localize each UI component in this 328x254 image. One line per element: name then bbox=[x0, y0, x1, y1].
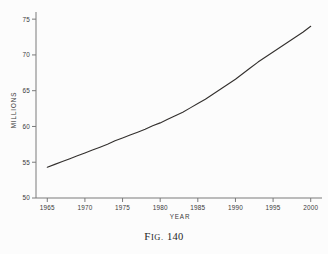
y-axis-tick-labels: 505560657075 bbox=[22, 16, 30, 202]
figure-caption: FIG. 140 bbox=[0, 230, 328, 242]
caption-smallcaps: IG. bbox=[151, 233, 164, 242]
y-tick-label: 50 bbox=[22, 194, 30, 201]
x-tick-label: 1975 bbox=[115, 204, 130, 211]
chart-canvas: 505560657075 196519701975198019851990199… bbox=[0, 0, 328, 254]
y-tick-label: 65 bbox=[22, 87, 30, 94]
y-tick-label: 75 bbox=[22, 16, 30, 23]
x-tick-label: 1990 bbox=[228, 204, 243, 211]
y-axis-title: MILLIONS bbox=[10, 92, 17, 129]
y-tick-label: 60 bbox=[22, 123, 30, 130]
population-line-series bbox=[47, 26, 310, 167]
x-tick-label: 1965 bbox=[40, 204, 55, 211]
x-tick-label: 1985 bbox=[190, 204, 205, 211]
figure-page: 505560657075 196519701975198019851990199… bbox=[0, 0, 328, 254]
x-tick-label: 1980 bbox=[153, 204, 168, 211]
x-axis-tick-labels: 19651970197519801985199019952000 bbox=[40, 204, 319, 211]
y-tick-label: 55 bbox=[22, 159, 30, 166]
x-tick-label: 1995 bbox=[266, 204, 281, 211]
x-tick-label: 1970 bbox=[77, 204, 92, 211]
caption-number: 140 bbox=[167, 231, 184, 242]
y-axis-ticks bbox=[32, 19, 36, 198]
x-axis-title: YEAR bbox=[170, 213, 191, 220]
y-tick-label: 70 bbox=[22, 51, 30, 58]
x-tick-label: 2000 bbox=[303, 204, 318, 211]
caption-prefix: F bbox=[144, 230, 151, 242]
x-axis-ticks bbox=[47, 198, 310, 202]
